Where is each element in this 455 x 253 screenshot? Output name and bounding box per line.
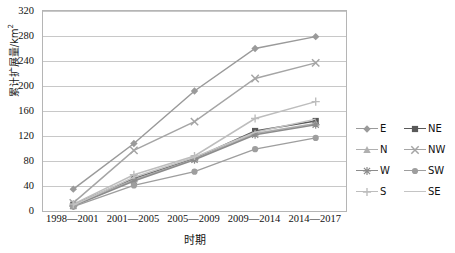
y-axis-tick-label: 240 (18, 56, 34, 67)
legend-item-sw[interactable]: SW (404, 165, 452, 176)
data-point-marker (312, 33, 319, 40)
legend-symbol-s (356, 186, 378, 197)
legend-symbol-nw (404, 144, 426, 155)
legend-marker-icon (362, 165, 373, 176)
y-axis-tick-label: 80 (24, 156, 35, 167)
x-axis-tick-label: 2009—2014 (228, 214, 281, 225)
data-point-marker (313, 135, 319, 141)
legend-row: ENE (356, 118, 453, 139)
legend-row: NNW (356, 139, 453, 160)
x-axis-tick-label: 2014—2017 (288, 214, 341, 225)
data-point-marker (363, 125, 370, 132)
series-lines (43, 11, 346, 211)
legend-marker-icon (410, 123, 421, 134)
y-axis-tick-label: 0 (29, 206, 34, 217)
legend-item-se[interactable]: SE (404, 186, 452, 197)
legend-symbol-w (356, 165, 378, 176)
legend-label: W (380, 166, 390, 176)
data-point-marker (130, 147, 137, 154)
legend-label: S (380, 187, 386, 197)
legend-marker-icon (410, 165, 421, 176)
series-line-e (73, 37, 315, 190)
legend-row: WSW (356, 160, 453, 181)
data-point-marker (251, 114, 259, 122)
legend-label: SE (428, 187, 441, 197)
y-axis-tick-label: 200 (18, 81, 34, 92)
plot-area (42, 10, 347, 212)
data-point-marker (363, 146, 370, 153)
legend-item-s[interactable]: S (356, 186, 404, 197)
data-point-marker (312, 121, 320, 129)
legend-marker-icon (362, 186, 373, 197)
x-axis-tick-label: 2001—2005 (107, 214, 160, 225)
data-point-marker (191, 169, 197, 175)
series-line-nw (73, 63, 315, 203)
legend-label: NE (428, 124, 442, 134)
legend-symbol-n (356, 144, 378, 155)
legend-symbol-se (404, 186, 426, 197)
legend-label: E (380, 124, 386, 134)
data-point-marker (252, 146, 258, 152)
legend-item-n[interactable]: N (356, 144, 404, 155)
data-point-marker (312, 98, 320, 106)
legend-row: SSE (356, 181, 453, 202)
chart-legend: ENENNWWSWSSE (356, 118, 453, 202)
data-point-marker (363, 187, 371, 195)
legend-symbol-ne (404, 123, 426, 134)
legend-symbol-e (356, 123, 378, 134)
legend-item-w[interactable]: W (356, 165, 404, 176)
y-axis-tick-label: 320 (18, 6, 34, 17)
y-axis-tick-label: 40 (24, 181, 35, 192)
chart-figure: 累计扩展量/km2 04080120160200240280320 1998—2… (0, 0, 455, 253)
data-point-marker (131, 182, 137, 188)
x-axis-tick-label: 1998—2001 (46, 214, 99, 225)
legend-item-ne[interactable]: NE (404, 123, 452, 134)
x-axis-tick-label: 2005—2009 (167, 214, 220, 225)
data-point-marker (191, 118, 198, 125)
legend-marker-icon (362, 123, 373, 134)
data-point-marker (363, 166, 371, 174)
y-axis-tick-labels: 04080120160200240280320 (0, 10, 39, 212)
data-point-marker (412, 125, 418, 131)
y-axis-tick-label: 280 (18, 31, 34, 42)
y-axis-tick-label: 160 (18, 106, 34, 117)
x-axis-title: 时期 (42, 231, 347, 247)
y-axis-tick-label: 120 (18, 131, 34, 142)
legend-label: SW (428, 166, 444, 176)
legend-label: NW (428, 145, 445, 155)
data-point-marker (412, 167, 418, 173)
legend-item-e[interactable]: E (356, 123, 404, 134)
legend-symbol-sw (404, 165, 426, 176)
x-axis-tick-labels: 1998—20012001—20052005—20092009—20142014… (42, 214, 347, 230)
legend-item-nw[interactable]: NW (404, 144, 452, 155)
legend-marker-icon (410, 144, 421, 155)
data-point-marker (411, 146, 418, 153)
legend-line (404, 191, 426, 192)
legend-marker-icon (362, 144, 373, 155)
legend-label: N (380, 145, 387, 155)
